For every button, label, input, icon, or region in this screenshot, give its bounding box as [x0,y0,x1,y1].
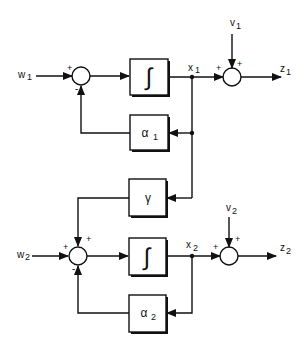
sum1-minus-sign: - [75,83,78,94]
integrator2-symbol: ∫ [142,243,152,271]
gamma-label: γ [145,191,151,205]
out1-x-plus-sign: + [216,63,221,73]
w1-subscript: 1 [27,72,32,82]
x1-node [190,75,194,79]
v2-subscript: 2 [232,206,237,216]
x2-node [190,254,194,258]
alpha1-branch-node [190,131,194,135]
sum2-gamma-plus-sign: + [86,234,91,244]
alpha2-block [129,295,166,332]
alpha1-subscript: 1 [153,132,158,142]
out2-x-plus-sign: + [213,242,218,252]
x2-tap-line [167,256,192,313]
w1-label: w [17,69,26,80]
x1-subscript: 1 [195,65,200,75]
alpha2-feedback-line [78,266,129,313]
alpha1-feedback-line [81,86,130,133]
w2-subscript: 2 [25,252,30,262]
out2-v-plus-sign: + [235,234,240,244]
w2-label: w [16,249,25,260]
output-summing-junction-1 [223,68,241,86]
sum2-plus-sign: + [63,242,68,252]
v2-label: v [226,202,231,213]
z1-label: z [280,63,285,74]
alpha1-block [130,115,168,150]
out1-v-plus-sign: + [237,59,242,69]
sum2-minus-sign: - [72,263,75,274]
sum1-plus-sign: + [67,63,72,73]
x2-label: x [186,239,191,250]
x1-label: x [188,62,193,73]
integrator1-symbol: ∫ [144,63,154,91]
z2-subscript: 2 [286,246,291,256]
z2-label: z [280,242,285,253]
output-summing-junction-2 [220,247,238,265]
v1-label: v [230,17,235,28]
alpha2-subscript: 2 [151,312,156,322]
z1-subscript: 1 [286,67,291,77]
v1-subscript: 1 [236,21,241,31]
x2-subscript: 2 [193,243,198,253]
alpha2-label: α [141,306,148,320]
alpha1-label: α [142,126,149,140]
block-diagram: ∫ ∫ α 1 γ α 2 w 1 w 2 v 1 v 2 x 1 x 2 z … [0,0,307,358]
